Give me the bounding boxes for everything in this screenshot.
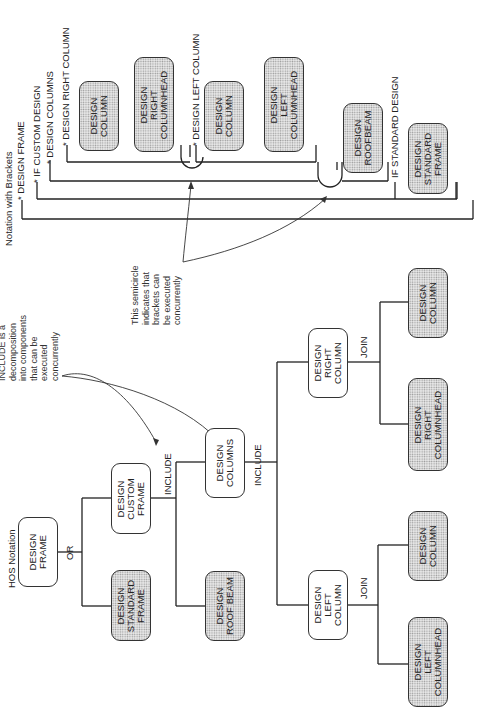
node-label: DESIGN STANDARD FRAME — [116, 579, 146, 631]
node-label: DESIGN COLUMN — [89, 95, 109, 137]
node-label: DESIGN RIGHT COLUMN — [313, 342, 343, 384]
node-label: DESIGN LEFT COLUMNHEAD — [413, 628, 443, 697]
node-label: DESIGN COLUMN — [418, 282, 438, 324]
bracket-design-columns: * DESIGN COLUMNS — [45, 71, 56, 164]
node-design-left-columnhead[interactable]: DESIGN LEFT COLUMNHEAD — [408, 617, 448, 707]
bracket-box-design-roofbeam[interactable]: DESIGN ROOFBEAM — [343, 103, 383, 173]
node-label: DESIGN LEFT COLUMNHEAD — [269, 70, 299, 139]
node-label: DESIGN STANDARD FRAME — [413, 132, 443, 184]
node-label: DESIGN FRAME — [28, 533, 48, 570]
node-label: DESIGN LEFT COLUMN — [313, 584, 343, 626]
node-label: DESIGN COLUMNS — [215, 439, 235, 487]
node-label: DESIGN CUSTOM FRAME — [116, 478, 146, 520]
node-label: DESIGN COLUMN — [214, 95, 234, 137]
node-design-column-left[interactable]: DESIGN COLUMN — [408, 511, 448, 581]
node-design-standard-frame[interactable]: DESIGN STANDARD FRAME — [111, 570, 151, 641]
node-label: DESIGN RIGHT COLUMNHEAD — [413, 390, 443, 459]
node-design-column-right[interactable]: DESIGN COLUMN — [408, 268, 448, 338]
join-label: JOIN — [359, 336, 370, 358]
bracket-design-left-column: * DESIGN LEFT COLUMN — [191, 34, 202, 146]
or-label: OR — [65, 546, 76, 560]
bracket-if-standard: IF STANDARD DESIGN — [390, 76, 401, 178]
join-label: JOIN — [359, 577, 370, 599]
hos-notation-title: HOS Notation — [7, 529, 18, 588]
node-design-columns[interactable]: DESIGN COLUMNS — [205, 428, 245, 498]
node-label: DESIGN COLUMN — [418, 525, 438, 567]
bracket-box-design-left-columnhead[interactable]: DESIGN LEFT COLUMNHEAD — [264, 57, 304, 152]
node-design-custom-frame[interactable]: DESIGN CUSTOM FRAME — [111, 463, 151, 534]
semicircle-note: This semicircle indicates that brackets … — [130, 265, 183, 325]
node-label: DESIGN RIGHT COLUMNHEAD — [139, 70, 169, 139]
node-label: DESIGN ROOF BEAM — [215, 577, 235, 635]
bracket-if-custom: * IF CUSTOM DESIGN — [32, 86, 43, 183]
node-design-left-column[interactable]: DESIGN LEFT COLUMN — [308, 570, 348, 640]
include-note: INCLUDE is a decomposition into componen… — [0, 315, 60, 381]
node-design-frame[interactable]: DESIGN FRAME — [18, 517, 58, 587]
node-design-roof-beam[interactable]: DESIGN ROOF BEAM — [205, 571, 245, 641]
bracket-box-design-right-columnhead[interactable]: DESIGN RIGHT COLUMNHEAD — [134, 57, 174, 152]
include-label: INCLUDE — [163, 453, 174, 495]
bracket-box-design-column[interactable]: DESIGN COLUMN — [79, 81, 119, 151]
bracket-design-right-column: * DESIGN RIGHT COLUMN — [61, 27, 72, 146]
bracket-design-frame: * DESIGN FRAME — [16, 121, 27, 200]
bracket-box-design-standard-frame[interactable]: DESIGN STANDARD FRAME — [408, 123, 448, 194]
include-label: INCLUDE — [253, 444, 264, 486]
node-label: DESIGN ROOFBEAM — [353, 110, 373, 165]
node-design-right-columnhead[interactable]: DESIGN RIGHT COLUMNHEAD — [408, 378, 448, 471]
bracket-box-design-column-2[interactable]: DESIGN COLUMN — [204, 81, 244, 151]
brackets-title: Notation with Brackets — [4, 151, 15, 246]
node-design-right-column[interactable]: DESIGN RIGHT COLUMN — [308, 328, 348, 398]
